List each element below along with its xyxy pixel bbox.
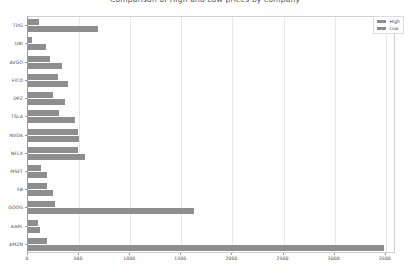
bar-low [28,208,194,214]
bar-group [28,147,394,161]
bar-group [28,74,394,88]
bar-high [28,238,47,244]
x-tick-mark [180,253,181,255]
bar-low [28,227,40,233]
bar-group [28,37,394,51]
bar-high [28,74,58,80]
bar-high [28,165,41,171]
bar-low [28,26,98,32]
bar-high [28,92,53,98]
y-tick-label: DPZ [13,96,23,101]
y-tick-label: AMZN [9,241,23,246]
bar-group [28,19,394,33]
bar-high [28,201,55,207]
chart-legend: HighLow [373,16,404,34]
x-tick-mark [27,253,28,255]
x-tick-mark [385,253,386,255]
x-tick-label: 1000 [123,256,135,261]
x-tick-label: 3500 [379,256,391,261]
legend-swatch-icon [377,27,386,30]
y-tick-label: UBI [15,41,23,46]
y-tick-label: TDG [13,23,23,28]
y-axis: TDGUBIAVGOFICODPZTSLANVDANFLXMSFTFBGOOGA… [0,16,27,253]
bar-group [28,201,394,215]
bar-group [28,183,394,197]
x-tick-mark [78,253,79,255]
x-tick-mark [231,253,232,255]
bar-high [28,19,39,25]
bar-low [28,154,85,160]
bar-group [28,56,394,70]
x-tick-label: 3000 [328,256,340,261]
x-tick-mark [334,253,335,255]
x-tick-label: 2500 [277,256,289,261]
bar-low [28,190,53,196]
bar-low [28,63,62,69]
y-tick-label: AVGO [9,59,23,64]
x-axis: 0500100015002000250030003500 [27,253,395,273]
x-tick-label: 1500 [174,256,186,261]
bar-group [28,165,394,179]
legend-item-high[interactable]: High [377,19,400,24]
bar-low [28,117,75,123]
legend-swatch-icon [377,20,386,23]
bar-low [28,172,47,178]
bar-group [28,92,394,106]
bar-high [28,183,47,189]
bar-group [28,129,394,143]
bar-high [28,129,78,135]
legend-label: High [389,19,400,24]
bar-high [28,220,38,226]
x-tick-label: 2000 [225,256,237,261]
bar-low [28,99,65,105]
y-tick-label: NFLX [11,150,23,155]
bar-low [28,81,68,87]
bar-series-group [28,17,394,252]
y-tick-label: GOOG [8,205,23,210]
bar-high [28,56,50,62]
y-tick-label: FICO [12,77,23,82]
y-tick-label: TSLA [11,114,23,119]
bar-high [28,110,59,116]
x-tick-mark [283,253,284,255]
bar-group [28,110,394,124]
legend-item-low[interactable]: Low [377,26,400,31]
bar-group [28,220,394,234]
bar-low [28,136,79,142]
x-tick-label: 500 [74,256,83,261]
bar-low [28,245,384,251]
x-tick-mark [129,253,130,255]
y-tick-label: AAPL [11,223,23,228]
bar-high [28,37,32,43]
bar-high [28,147,78,153]
bar-low [28,44,46,50]
bar-group [28,238,394,252]
y-tick-label: MSFT [10,168,23,173]
y-tick-label: NVDA [9,132,23,137]
chart-figure: Comparison of High and Low prices by com… [0,0,410,280]
plot-area [27,16,395,253]
x-tick-label: 0 [25,256,28,261]
legend-label: Low [389,26,398,31]
chart-title: Comparison of High and Low prices by com… [0,0,410,4]
y-tick-label: FB [17,187,23,192]
